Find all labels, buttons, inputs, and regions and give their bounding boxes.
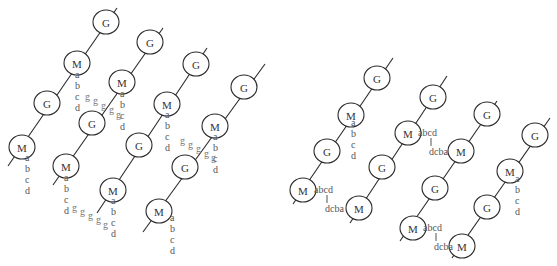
gene-node: G bbox=[231, 75, 257, 99]
svg-text:a: a bbox=[25, 152, 30, 163]
marker-node: M bbox=[346, 196, 372, 220]
node-label: G bbox=[135, 140, 143, 152]
node-label: M bbox=[354, 203, 364, 215]
svg-text:c: c bbox=[351, 139, 356, 150]
gene-node: G bbox=[474, 102, 500, 126]
svg-text:a: a bbox=[213, 131, 218, 142]
abcd-vertical-label: abcd bbox=[64, 172, 69, 216]
marker-node: M bbox=[9, 135, 35, 159]
node-label: M bbox=[456, 146, 466, 158]
node-label: M bbox=[154, 206, 164, 218]
svg-text:c: c bbox=[515, 195, 520, 206]
gene-node: G bbox=[183, 52, 209, 76]
inversion-label: abcddcba bbox=[418, 127, 448, 157]
svg-text:c: c bbox=[170, 234, 175, 245]
gene-node: G bbox=[137, 30, 163, 54]
svg-text:b: b bbox=[351, 128, 356, 139]
node-label: G bbox=[240, 82, 248, 94]
svg-text:a: a bbox=[165, 109, 170, 120]
svg-text:dcba: dcba bbox=[434, 241, 453, 252]
svg-text:c: c bbox=[111, 217, 116, 228]
abcd-vertical-label: abcd bbox=[170, 212, 175, 256]
svg-text:abcd: abcd bbox=[314, 184, 333, 195]
svg-text:b: b bbox=[515, 184, 520, 195]
svg-text:g: g bbox=[85, 91, 90, 102]
marker-node: M bbox=[448, 139, 474, 163]
svg-text:a: a bbox=[351, 117, 356, 128]
svg-text:c: c bbox=[64, 194, 69, 205]
inversion-label: abcddcba bbox=[423, 222, 453, 252]
node-label: G bbox=[431, 183, 439, 195]
abcd-vertical-label: abcd bbox=[351, 117, 356, 161]
svg-text:g: g bbox=[101, 100, 106, 111]
node-label: G bbox=[373, 73, 381, 85]
gene-node: G bbox=[522, 123, 548, 147]
node-label: M bbox=[457, 241, 467, 253]
svg-text:d: d bbox=[515, 206, 520, 217]
node-label: M bbox=[61, 161, 71, 173]
svg-text:b: b bbox=[64, 183, 69, 194]
abcd-vertical-label: abcd bbox=[75, 69, 80, 113]
svg-text:a: a bbox=[111, 195, 116, 206]
node-label: M bbox=[117, 77, 127, 89]
svg-text:d: d bbox=[213, 164, 218, 175]
gene-node: G bbox=[422, 176, 448, 200]
marker-node: M bbox=[449, 234, 475, 258]
svg-text:a: a bbox=[120, 88, 125, 99]
svg-text:g: g bbox=[96, 214, 101, 225]
svg-text:d: d bbox=[170, 245, 175, 256]
svg-text:g: g bbox=[93, 95, 98, 106]
gene-node: G bbox=[369, 155, 395, 179]
node-label: G bbox=[378, 162, 386, 174]
inversion-label: abcddcba bbox=[314, 184, 344, 214]
left-panel-crossover-diagram: GMGMGMGMGMGMGMGMabcdabcdabcdabcdabcdabcd… bbox=[8, 8, 265, 256]
svg-text:c: c bbox=[165, 131, 170, 142]
svg-text:d: d bbox=[351, 150, 356, 161]
svg-text:c: c bbox=[25, 174, 30, 185]
svg-text:g: g bbox=[204, 148, 209, 159]
gene-node: G bbox=[79, 111, 105, 135]
node-label: G bbox=[102, 17, 110, 29]
svg-text:dcba: dcba bbox=[429, 146, 448, 157]
node-label: G bbox=[429, 92, 437, 104]
left-strand-2: GMGM bbox=[53, 28, 163, 185]
node-label: G bbox=[483, 202, 491, 214]
gene-node: G bbox=[420, 85, 446, 109]
svg-text:b: b bbox=[170, 223, 175, 234]
svg-text:a: a bbox=[75, 69, 80, 80]
node-label: G bbox=[323, 146, 331, 158]
svg-text:d: d bbox=[25, 185, 30, 196]
node-label: G bbox=[483, 109, 491, 121]
svg-text:abcd: abcd bbox=[418, 127, 437, 138]
svg-text:g: g bbox=[103, 219, 108, 230]
svg-text:g: g bbox=[88, 210, 93, 221]
svg-text:b: b bbox=[25, 163, 30, 174]
marker-node: M bbox=[146, 199, 172, 223]
node-label: G bbox=[531, 130, 539, 142]
abcd-vertical-label: abcd bbox=[515, 173, 520, 217]
svg-text:d: d bbox=[120, 121, 125, 132]
abcd-vertical-label: abcd bbox=[25, 152, 30, 196]
left-strand-1: GMGM bbox=[8, 8, 119, 166]
svg-text:d: d bbox=[64, 205, 69, 216]
svg-text:a: a bbox=[515, 173, 520, 184]
gene-node: G bbox=[126, 133, 152, 157]
svg-text:g: g bbox=[180, 135, 185, 146]
svg-text:g: g bbox=[211, 152, 216, 163]
node-label: M bbox=[72, 58, 82, 70]
right-panel-inversion-diagram: GMGMGMGMGMGMGMGMabcdabcdabcddcbaabcddcba… bbox=[290, 58, 550, 258]
svg-text:b: b bbox=[165, 120, 170, 131]
svg-text:d: d bbox=[75, 102, 80, 113]
svg-text:dcba: dcba bbox=[325, 203, 344, 214]
node-label: G bbox=[192, 59, 200, 71]
gene-node: G bbox=[364, 66, 390, 90]
svg-text:g: g bbox=[196, 143, 201, 154]
svg-text:g: g bbox=[188, 139, 193, 150]
gene-node: G bbox=[93, 10, 119, 34]
svg-text:d: d bbox=[165, 142, 170, 153]
node-label: G bbox=[88, 118, 96, 130]
svg-text:b: b bbox=[111, 206, 116, 217]
svg-text:c: c bbox=[75, 91, 80, 102]
node-label: G bbox=[146, 37, 154, 49]
svg-text:g: g bbox=[72, 202, 77, 213]
